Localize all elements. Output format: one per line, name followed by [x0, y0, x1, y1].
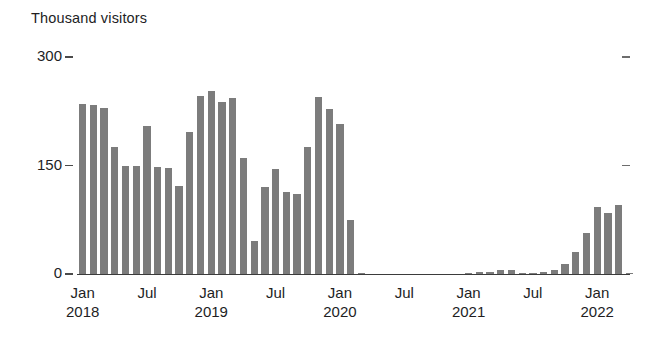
bar: [304, 147, 311, 274]
bar: [90, 105, 97, 274]
bar: [165, 168, 172, 274]
bar: [347, 220, 354, 274]
x-axis-line: [77, 274, 630, 276]
bar: [293, 194, 300, 274]
bar: [197, 96, 204, 274]
bar: [143, 126, 150, 274]
bar: [229, 98, 236, 274]
x-tick-label: Jan2022: [557, 283, 637, 322]
bar: [208, 91, 215, 274]
bar: [218, 102, 225, 274]
bar: [186, 132, 193, 274]
bar: [572, 252, 579, 274]
x-tick-year: 2021: [429, 302, 509, 322]
bar: [133, 166, 140, 275]
bar: [154, 167, 161, 274]
bar: [604, 213, 611, 274]
bar: [315, 97, 322, 274]
bar: [111, 147, 118, 274]
x-tick-year: 2020: [300, 302, 380, 322]
x-tick-year: 2019: [171, 302, 251, 322]
bar: [272, 169, 279, 274]
visitor-bar-chart: Thousand visitors 0150300 Jan2018JulJan2…: [0, 0, 662, 341]
x-tick-month: Jan: [557, 283, 637, 302]
x-tick-year: 2018: [43, 302, 123, 322]
bar: [261, 187, 268, 274]
bar: [175, 186, 182, 274]
bar: [100, 108, 107, 274]
bar: [240, 158, 247, 274]
bar: [594, 207, 601, 274]
x-tick-year: 2022: [557, 302, 637, 322]
bar: [583, 233, 590, 274]
bar: [283, 192, 290, 274]
bar: [561, 264, 568, 274]
bar: [326, 109, 333, 274]
bar: [122, 166, 129, 275]
bar: [79, 104, 86, 274]
bar: [336, 124, 343, 274]
bar: [615, 205, 622, 274]
bar: [251, 241, 258, 274]
